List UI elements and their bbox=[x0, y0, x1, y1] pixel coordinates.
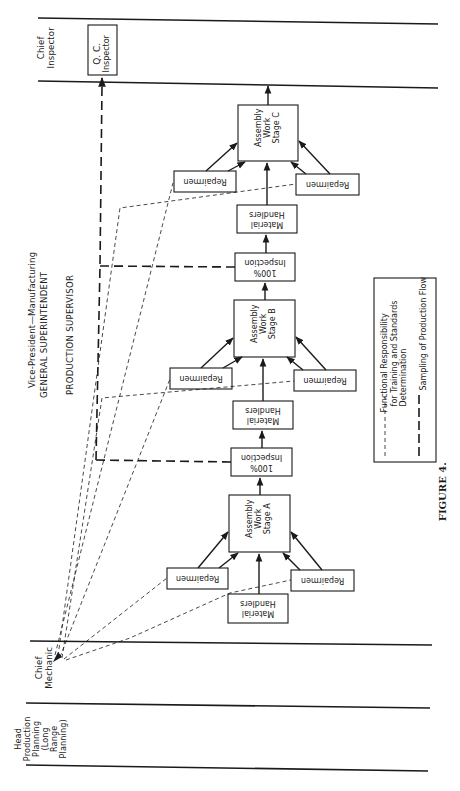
general-superintendent-title: GENERAL SUPERINTENDENT bbox=[40, 260, 50, 410]
legend-sampling-production-flow: Sampling of Production Flow bbox=[419, 271, 428, 391]
stage-a-label: Assembly Work Stage A bbox=[245, 493, 273, 545]
material-handlers-c-text: Material Handlers bbox=[237, 205, 297, 233]
legend-functional-responsibility: Functional Responsibility for Training a… bbox=[380, 292, 409, 412]
label-line: Assembly bbox=[254, 102, 263, 154]
label-line: Stage B bbox=[269, 298, 278, 350]
repairmen-a-right-text: Repairmen bbox=[291, 570, 354, 591]
label-line: Handlers bbox=[245, 405, 281, 415]
label-line: Stage C bbox=[273, 102, 282, 154]
stage-c-label: Assembly Work Stage C bbox=[254, 102, 282, 154]
label-line: Inspection bbox=[244, 257, 285, 267]
repairmen-c-right-text: Repairmen bbox=[296, 174, 359, 195]
repairmen-b-left-text: Repairmen bbox=[170, 368, 232, 389]
inspection-1-text: 100% Inspection bbox=[231, 448, 292, 476]
vp-manufacturing-title: Vice-President—Manufacturing bbox=[28, 235, 38, 405]
label-line: Handlers bbox=[240, 599, 276, 609]
label-line: Q. C. bbox=[92, 29, 102, 79]
repairmen-a-left-text: Repairmen bbox=[167, 568, 228, 589]
label-line: Handlers bbox=[249, 209, 285, 219]
lane-label-chief-inspector: Chief Inspector bbox=[37, 23, 57, 73]
lane-label-head-production-planning: Head Production Planning (Long Range Pla… bbox=[15, 704, 69, 774]
label-line: Mechanic bbox=[45, 641, 55, 695]
legend-line: Functional Responsibility bbox=[380, 292, 390, 412]
material-handlers-a-text: Material Handlers bbox=[228, 594, 288, 623]
label-line: Inspector bbox=[47, 23, 57, 73]
label-line: Inspector bbox=[103, 29, 112, 79]
stage-b-label: Assembly Work Stage B bbox=[250, 298, 278, 350]
repairmen-b-right-text: Repairmen bbox=[294, 370, 356, 391]
label-line: 100% bbox=[250, 462, 273, 472]
label-line: Material bbox=[247, 415, 280, 425]
production-supervisor-title: PRODUCTION SUPERVISOR bbox=[66, 260, 76, 410]
qc-inspector-label: Q. C. Inspector bbox=[92, 29, 112, 79]
label-line: 100% bbox=[254, 267, 277, 277]
legend-line: for Training and Standards bbox=[389, 292, 399, 412]
sampling-flow-lines bbox=[96, 78, 235, 462]
label-line: Stage A bbox=[264, 493, 273, 545]
label-line: Work bbox=[263, 102, 272, 154]
label-line: Work bbox=[259, 298, 268, 350]
material-handlers-b-text: Material Handlers bbox=[233, 401, 293, 429]
repairmen-c-left-text: Repairmen bbox=[174, 171, 236, 192]
label-line: Assembly bbox=[250, 298, 259, 350]
label-line: Work bbox=[254, 493, 263, 545]
label-line: Material bbox=[242, 609, 275, 619]
label-line: Inspection bbox=[241, 452, 282, 462]
inspection-2-text: 100% Inspection bbox=[235, 253, 295, 281]
legend-line: Sampling of Production Flow bbox=[419, 271, 428, 391]
label-line: Assembly bbox=[245, 493, 254, 545]
figure-caption: FIGURE 4. bbox=[437, 457, 449, 527]
label-line: Planning) bbox=[60, 704, 69, 774]
label-line: Material bbox=[251, 219, 284, 229]
lane-label-chief-mechanic: Chief Mechanic bbox=[35, 641, 55, 695]
legend-line: Determination bbox=[399, 292, 409, 412]
